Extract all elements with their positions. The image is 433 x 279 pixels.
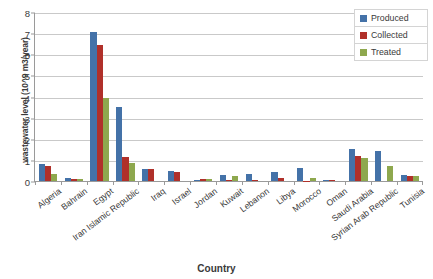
bar-treated	[387, 166, 393, 181]
y-tick-label: 5	[25, 71, 30, 82]
bar-group	[61, 13, 87, 181]
bar-group	[164, 13, 190, 181]
bar-treated	[206, 179, 212, 181]
bar-treated	[413, 176, 419, 181]
bar-group	[113, 13, 139, 181]
legend-label: Treated	[371, 47, 401, 57]
bar-group	[216, 13, 242, 181]
y-tick-label: 3	[25, 113, 30, 124]
bar-group	[87, 13, 113, 181]
y-tick-label: 7	[25, 29, 30, 40]
bar-group	[190, 13, 216, 181]
bar-treated	[129, 163, 135, 181]
y-tick-label: 1	[25, 155, 30, 166]
bar-treated	[232, 176, 238, 181]
chart-legend: ProducedCollectedTreated	[354, 9, 428, 61]
legend-item[interactable]: Collected	[355, 27, 427, 44]
x-tick-label: Israel	[170, 186, 193, 207]
bar-collected	[174, 172, 180, 181]
y-tick-label: 4	[25, 92, 30, 103]
legend-swatch-icon	[360, 15, 367, 22]
bar-group	[268, 13, 294, 181]
y-tick-label: 6	[25, 50, 30, 61]
bar-collected	[252, 180, 258, 181]
bar-collected	[278, 178, 284, 181]
bar-collected	[329, 180, 335, 181]
x-tick-label: Iraq	[149, 186, 167, 203]
bar-produced	[375, 151, 381, 181]
bar-group	[294, 13, 320, 181]
bar-group	[319, 13, 345, 181]
x-axis-title: Country	[0, 263, 433, 274]
bar-group	[138, 13, 164, 181]
x-tick-label: Jordan	[192, 186, 219, 210]
y-tick-label: 0	[25, 177, 30, 188]
bar-chart: wastewater level (10^9 m3/year) 01234567…	[0, 0, 433, 279]
legend-swatch-icon	[360, 32, 367, 39]
x-axis-tick-labels: AlgeriaBahrainEgyptIran Islamic Republic…	[34, 186, 423, 256]
y-tick-label: 2	[25, 134, 30, 145]
legend-item[interactable]: Produced	[355, 10, 427, 27]
bar-produced	[297, 168, 303, 181]
bar-treated	[51, 174, 57, 181]
bar-group	[35, 13, 61, 181]
y-tick-label: 8	[25, 8, 30, 19]
legend-label: Collected	[371, 30, 408, 40]
bar-treated	[361, 158, 367, 181]
legend-item[interactable]: Treated	[355, 44, 427, 60]
bar-treated	[103, 98, 109, 181]
legend-swatch-icon	[360, 49, 367, 56]
bar-collected	[148, 169, 154, 181]
x-tick-label: Algeria	[36, 186, 64, 210]
bar-treated	[310, 178, 316, 181]
legend-label: Produced	[371, 13, 409, 23]
bar-group	[242, 13, 268, 181]
x-tick-label: Bahrain	[59, 186, 89, 212]
x-tick-label: Tunisia	[398, 186, 426, 211]
bar-treated	[77, 179, 83, 181]
